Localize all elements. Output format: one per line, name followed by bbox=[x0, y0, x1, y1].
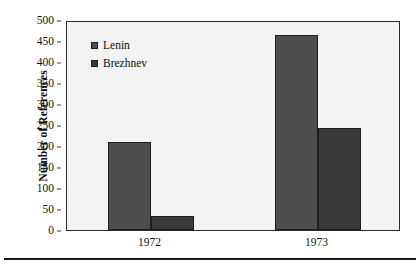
y-axis-tick-mark bbox=[57, 105, 61, 106]
bottom-divider bbox=[4, 258, 416, 260]
bar-brezhnev-1973 bbox=[318, 128, 361, 230]
y-axis-tick-label: 150 bbox=[37, 162, 54, 174]
y-axis-tick-mark bbox=[57, 84, 61, 85]
legend-item: Lenin bbox=[91, 39, 147, 51]
y-axis-tick-mark bbox=[57, 42, 61, 43]
y-axis-tick-mark bbox=[57, 21, 61, 22]
y-axis-tick-label: 350 bbox=[37, 78, 54, 90]
plot-area: LeninBrezhnev bbox=[66, 21, 400, 231]
y-axis-tick-label: 50 bbox=[43, 204, 55, 216]
chart-legend: LeninBrezhnev bbox=[91, 39, 147, 75]
y-axis-tick-labels: 050100150200250300350400450500 bbox=[26, 21, 60, 231]
y-axis-tick-label: 300 bbox=[37, 99, 54, 111]
legend-item: Brezhnev bbox=[91, 57, 147, 69]
y-axis-tick-label: 200 bbox=[37, 141, 54, 153]
y-axis-tick-label: 250 bbox=[37, 120, 54, 132]
y-axis-tick-label: 450 bbox=[37, 36, 54, 48]
bar-chart-figure: Number of References 0501001502002503003… bbox=[0, 0, 420, 273]
bar-lenin-1973 bbox=[275, 35, 318, 230]
y-axis-tick-mark bbox=[57, 147, 61, 148]
legend-swatch-icon bbox=[91, 60, 98, 67]
y-axis-tick-label: 500 bbox=[37, 15, 54, 27]
y-axis-tick-label: 100 bbox=[37, 183, 54, 195]
y-axis-tick-mark bbox=[57, 63, 61, 64]
x-axis-tick-labels: 19721973 bbox=[66, 236, 400, 254]
y-axis-tick-mark bbox=[57, 168, 61, 169]
y-axis-tick-mark bbox=[57, 210, 61, 211]
y-axis-tick-mark bbox=[57, 231, 61, 232]
legend-swatch-icon bbox=[91, 42, 98, 49]
bar-lenin-1972 bbox=[108, 142, 151, 230]
x-axis-tick-label: 1972 bbox=[138, 236, 161, 248]
y-axis-tick-label: 0 bbox=[48, 225, 54, 237]
y-axis-tick-mark bbox=[57, 189, 61, 190]
y-axis-tick-label: 400 bbox=[37, 57, 54, 69]
bar-brezhnev-1972 bbox=[151, 216, 194, 230]
x-axis-tick-label: 1973 bbox=[305, 236, 328, 248]
legend-label: Brezhnev bbox=[103, 57, 147, 69]
plot-inner: LeninBrezhnev bbox=[67, 22, 399, 230]
legend-label: Lenin bbox=[103, 39, 130, 51]
y-axis-tick-mark bbox=[57, 126, 61, 127]
